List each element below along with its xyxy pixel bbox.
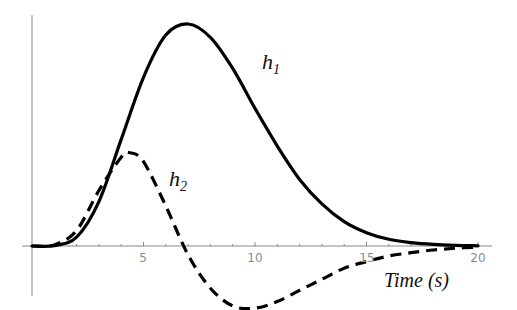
chart: 5 10 15 20 h1 h2 Time (s) — [0, 0, 517, 310]
h1-curve — [32, 24, 478, 246]
x-tick-label-5: 5 — [139, 251, 147, 265]
x-tick-label-20: 20 — [470, 251, 485, 265]
h2-label: h2 — [169, 166, 187, 194]
h1-label: h1 — [262, 49, 280, 77]
x-tick-label-15: 15 — [359, 251, 374, 265]
x-axis-title: Time (s) — [384, 269, 449, 292]
x-tick-label-10: 10 — [247, 251, 262, 265]
